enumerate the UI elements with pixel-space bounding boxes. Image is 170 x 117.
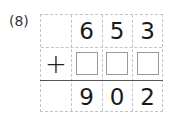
answer-blank-tens-cell[interactable]	[102, 47, 132, 80]
problem-number: (8)	[9, 13, 29, 29]
answer-blank-ones-cell[interactable]	[132, 47, 163, 80]
answer-blank-tens[interactable]	[106, 52, 128, 75]
answer-blank-ones[interactable]	[137, 52, 159, 75]
sum-digit-ones: 2	[132, 81, 163, 112]
answer-blank-hundreds-cell[interactable]	[71, 47, 102, 80]
top-digit-ones: 3	[132, 15, 163, 47]
top-digit-cell	[41, 15, 71, 47]
sum-digit-tens: 0	[102, 81, 132, 112]
addition-grid: 6 5 3 + 9 0 2	[40, 14, 163, 112]
sum-digit-hundreds: 9	[71, 81, 102, 112]
answer-blank-hundreds[interactable]	[76, 52, 98, 75]
top-digit-tens: 5	[102, 15, 132, 47]
plus-operator: +	[41, 47, 71, 80]
top-digit-hundreds: 6	[71, 15, 102, 47]
sum-digit-cell	[41, 81, 71, 112]
